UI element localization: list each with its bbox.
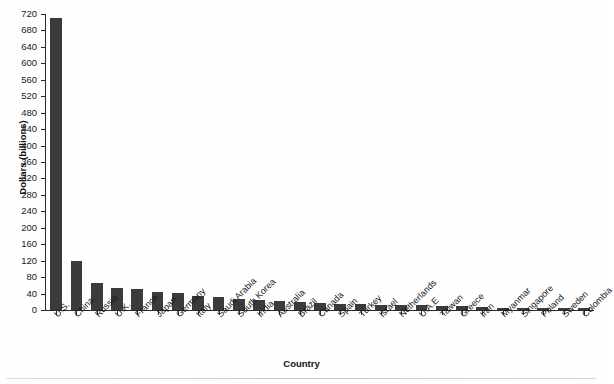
bar-slot: [147, 14, 167, 310]
y-tick-label: 600: [7, 57, 37, 68]
y-tick-mark: [41, 47, 45, 48]
bar-slot: [249, 14, 269, 310]
bar: [50, 18, 62, 310]
y-tick-mark: [41, 228, 45, 229]
y-tick-label: 120: [7, 255, 37, 266]
y-tick-mark: [41, 261, 45, 262]
y-tick-label: 200: [7, 222, 37, 233]
y-tick-mark: [41, 113, 45, 114]
bar-slot: [46, 14, 66, 310]
y-tick-label: 0: [7, 304, 37, 315]
y-tick-mark: [41, 14, 45, 15]
bar-slot: [493, 14, 513, 310]
y-tick-label: 520: [7, 90, 37, 101]
bar-slot: [127, 14, 147, 310]
bar-slot: [208, 14, 228, 310]
bar-slot: [472, 14, 492, 310]
y-tick-label: 320: [7, 172, 37, 183]
y-tick-mark: [41, 162, 45, 163]
bar-slot: [290, 14, 310, 310]
bar-slot: [310, 14, 330, 310]
y-tick-label: 680: [7, 24, 37, 35]
y-tick-label: 720: [7, 8, 37, 19]
y-tick-label: 640: [7, 41, 37, 52]
bar-slot: [452, 14, 472, 310]
y-tick-mark: [41, 30, 45, 31]
bar-slot: [553, 14, 573, 310]
y-tick-label: 240: [7, 205, 37, 216]
bar-slot: [411, 14, 431, 310]
y-tick-mark: [41, 80, 45, 81]
y-tick-mark: [41, 294, 45, 295]
bar-slot: [87, 14, 107, 310]
bar-slot: [168, 14, 188, 310]
y-tick-mark: [41, 146, 45, 147]
bar-slot: [350, 14, 370, 310]
y-tick-label: 360: [7, 156, 37, 167]
bar-slot: [432, 14, 452, 310]
y-tick-mark: [41, 277, 45, 278]
bar-slot: [574, 14, 594, 310]
y-tick-label: 40: [7, 288, 37, 299]
y-tick-label: 560: [7, 74, 37, 85]
plot-area: 0408012016020024028032036040044048052056…: [45, 14, 594, 311]
bar-slot: [229, 14, 249, 310]
bar-series: [46, 14, 594, 310]
bar-slot: [371, 14, 391, 310]
y-tick-label: 400: [7, 140, 37, 151]
y-tick-mark: [41, 244, 45, 245]
y-tick-mark: [41, 63, 45, 64]
bar-slot: [269, 14, 289, 310]
y-tick-label: 160: [7, 238, 37, 249]
x-axis-title: Country: [0, 358, 603, 369]
y-tick-label: 440: [7, 123, 37, 134]
y-tick-mark: [41, 96, 45, 97]
bar-slot: [533, 14, 553, 310]
y-tick-label: 280: [7, 189, 37, 200]
y-tick-mark: [41, 129, 45, 130]
bar-slot: [391, 14, 411, 310]
y-tick-mark: [41, 211, 45, 212]
page-edge-line: [6, 378, 596, 379]
bar-slot: [188, 14, 208, 310]
y-tick-label: 480: [7, 107, 37, 118]
bar-slot: [513, 14, 533, 310]
y-tick-mark: [41, 310, 45, 311]
bar-slot: [66, 14, 86, 310]
y-tick-label: 80: [7, 271, 37, 282]
y-tick-mark: [41, 178, 45, 179]
bar-slot: [330, 14, 350, 310]
bar-slot: [107, 14, 127, 310]
y-tick-mark: [41, 195, 45, 196]
